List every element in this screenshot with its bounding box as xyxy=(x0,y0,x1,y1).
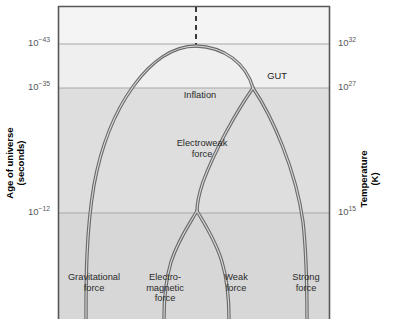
left-tick-10e-35: 10−35 xyxy=(0,81,50,92)
electromagnetic-force-label: Electro- magnetic force xyxy=(135,272,195,304)
left-tick-10e-43: 10−43 xyxy=(0,37,50,48)
inflation-label: Inflation xyxy=(172,90,228,101)
force-unification-diagram: Age of universe (seconds) 10−43 10−35 10… xyxy=(0,0,393,319)
right-tick-10e27: 1027 xyxy=(338,81,388,92)
band-pre-planck xyxy=(58,6,330,44)
right-tick-10e15: 1015 xyxy=(338,206,388,217)
gut-label: GUT xyxy=(255,71,299,82)
strong-force-label: Strong force xyxy=(281,272,331,293)
weak-force-label: Weak force xyxy=(212,272,260,293)
left-axis-title: Age of universe (seconds) xyxy=(4,120,26,206)
gravitational-force-label: Gravitational force xyxy=(57,272,131,293)
right-tick-10e32: 1032 xyxy=(338,37,388,48)
left-tick-10e-12: 10−12 xyxy=(0,206,50,217)
electroweak-force-label: Electroweak force xyxy=(166,138,238,159)
